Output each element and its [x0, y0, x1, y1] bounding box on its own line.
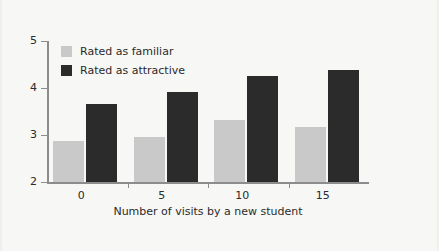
y-axis-tick-label: 4 [30, 80, 37, 96]
y-axis-line [47, 41, 49, 183]
y-axis-tick: 5 [41, 41, 49, 42]
bar-attractive-5 [167, 92, 198, 182]
legend-item-familiar: Rated as familiar [61, 43, 185, 60]
y-axis-tick: 4 [41, 88, 49, 89]
x-axis-tick-label: 10 [235, 189, 249, 202]
legend-label-familiar: Rated as familiar [80, 45, 173, 58]
x-axis-tick [128, 183, 129, 188]
y-axis-tick: 2 [41, 182, 49, 183]
y-axis-tick-label: 2 [30, 174, 37, 190]
y-axis-tick-label: 3 [30, 127, 37, 143]
x-axis-tick [208, 183, 209, 188]
bar-chart-figure: 2345 051015 Rated as familiar Rated as a… [0, 0, 439, 251]
bar-familiar-0 [53, 141, 84, 182]
bar-familiar-5 [134, 137, 165, 182]
x-axis-tick [289, 183, 290, 188]
y-axis-tick-label: 5 [30, 33, 37, 49]
bar-familiar-10 [214, 120, 245, 183]
bar-attractive-0 [86, 104, 117, 182]
bar-attractive-10 [247, 76, 278, 182]
x-axis-tick-label: 5 [158, 189, 165, 202]
bar-attractive-15 [328, 70, 359, 182]
legend-swatch-icon-familiar [61, 46, 72, 57]
chart-legend: Rated as familiar Rated as attractive [61, 43, 185, 81]
x-axis-tick-label: 15 [316, 189, 330, 202]
legend-swatch-icon-attractive [61, 65, 72, 76]
x-axis-title: Number of visits by a new student [47, 205, 369, 218]
bar-familiar-15 [295, 127, 326, 182]
x-axis-tick-label: 0 [78, 189, 85, 202]
legend-item-attractive: Rated as attractive [61, 62, 185, 79]
y-axis-tick: 3 [41, 135, 49, 136]
legend-label-attractive: Rated as attractive [80, 64, 185, 77]
